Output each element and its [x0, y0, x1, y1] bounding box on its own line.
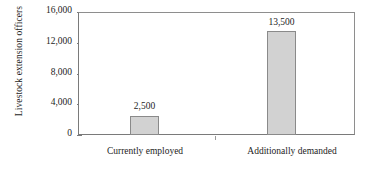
- y-tick-mark-0: [77, 135, 82, 136]
- x-category-label-currently-employed: Currently employed: [85, 146, 205, 156]
- y-tick-label-8000: 8,000: [51, 67, 72, 77]
- x-category-label-additionally-demanded: Additionally demanded: [222, 146, 362, 156]
- y-tick-label-16000: 16,000: [46, 5, 72, 15]
- plot-area: [78, 12, 355, 135]
- x-tick-mark-mid: [215, 136, 216, 140]
- bar-additionally-demanded: [267, 31, 296, 135]
- bar-chart: Livestock extension officers 0 4,000 8,0…: [0, 0, 368, 178]
- bar-value-additionally-demanded: 13,500: [257, 17, 306, 27]
- y-tick-label-12000: 12,000: [46, 36, 72, 46]
- y-tick-label-0: 0: [67, 128, 72, 138]
- bar-currently-employed: [130, 116, 159, 135]
- y-axis-title: Livestock extension officers: [14, 0, 24, 136]
- bar-value-currently-employed: 2,500: [120, 101, 169, 111]
- y-tick-label-4000: 4,000: [51, 97, 72, 107]
